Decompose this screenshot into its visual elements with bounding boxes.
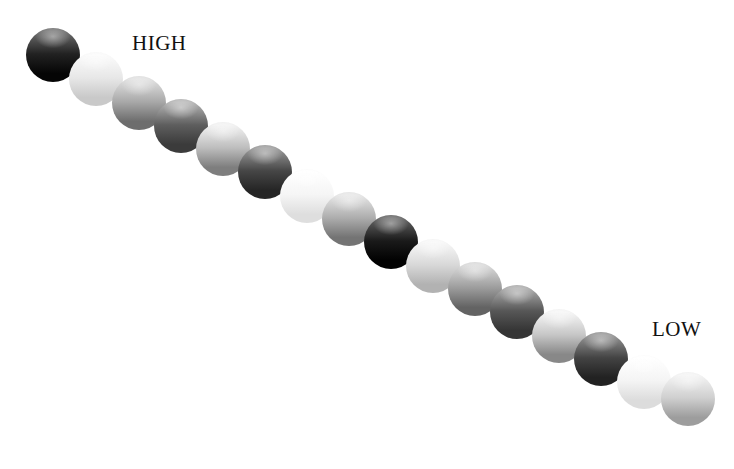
low-label: LOW <box>652 317 701 342</box>
sphere-scale-figure: HIGH LOW <box>0 0 734 469</box>
high-label: HIGH <box>132 31 187 56</box>
gradient-sphere-16 <box>661 372 715 426</box>
